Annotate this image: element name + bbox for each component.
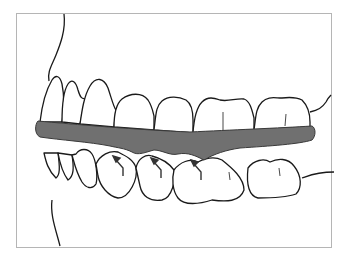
lower-teeth (44, 150, 334, 247)
dental-splint-illustration (0, 0, 360, 262)
lower-tooth (44, 153, 59, 178)
lower-tooth (247, 159, 300, 198)
upper-tooth (154, 97, 193, 133)
gum-line-right-lower (302, 172, 334, 178)
upper-tooth (80, 79, 116, 127)
upper-lip-line (49, 14, 65, 81)
upper-tooth (40, 77, 64, 122)
lower-tooth (72, 150, 97, 188)
lower-lip-line (52, 200, 60, 246)
gum-line-right (310, 95, 331, 112)
lower-tooth (58, 153, 73, 180)
upper-tooth (193, 98, 254, 133)
upper-teeth (40, 14, 331, 133)
illustration-canvas (0, 0, 360, 262)
upper-tooth (114, 94, 154, 130)
lower-tooth (173, 158, 244, 204)
upper-tooth (254, 97, 310, 130)
